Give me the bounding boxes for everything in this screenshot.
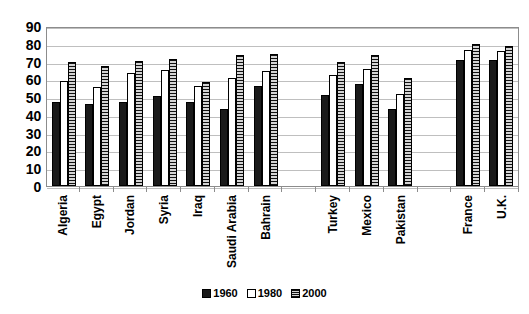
bar-1960 xyxy=(489,60,497,186)
y-tick-label: 70 xyxy=(26,56,41,70)
bar-group-jordan xyxy=(114,28,148,186)
bar-1980 xyxy=(161,70,169,186)
x-label-cell xyxy=(282,193,316,278)
plot-area xyxy=(46,27,519,187)
x-tick-label: Jordan xyxy=(124,195,136,235)
legend-swatch-icon xyxy=(247,289,256,298)
x-tick-label: Algeria xyxy=(57,195,69,236)
bar-1980 xyxy=(194,86,202,186)
x-tick-label: Saudi Arabia xyxy=(226,195,238,268)
bar-group xyxy=(47,28,81,186)
bar-1960 xyxy=(355,84,363,186)
y-tick-label: 0 xyxy=(33,180,41,194)
bar-group xyxy=(383,28,417,186)
legend-label: 1960 xyxy=(213,288,237,299)
y-tick-label: 30 xyxy=(26,127,41,141)
bar-2000 xyxy=(135,61,143,186)
bar-1960 xyxy=(186,102,194,186)
y-tick-label: 50 xyxy=(26,91,41,105)
y-tick-label: 90 xyxy=(26,20,41,34)
x-label-cell xyxy=(418,193,452,278)
x-tick-label: U.K. xyxy=(496,195,508,219)
bar-1960 xyxy=(220,109,228,186)
x-label-cell: Saudi Arabia xyxy=(215,193,249,278)
bar-1980 xyxy=(363,69,371,186)
x-label-cell: France xyxy=(451,193,485,278)
bar-2000 xyxy=(68,62,76,186)
bar-group xyxy=(417,28,451,186)
bars-layer xyxy=(47,28,518,186)
x-tick-label: Pakistan xyxy=(395,195,407,244)
y-tick-label: 10 xyxy=(26,162,41,176)
x-label-cell: Jordan xyxy=(114,193,148,278)
x-tick-label: Turkey xyxy=(327,195,339,233)
legend-item-1960: 1960 xyxy=(202,288,237,299)
bar-group-egypt xyxy=(81,28,115,186)
bar-group-empty xyxy=(417,28,451,186)
x-tick-label: Iraq xyxy=(192,195,204,217)
bar-1980 xyxy=(93,87,101,186)
chart-legend: 196019802000 xyxy=(0,288,529,299)
y-axis: 9080706050403020100 xyxy=(0,22,44,192)
legend-swatch-icon xyxy=(291,289,300,298)
bar-1980 xyxy=(329,75,337,186)
bar-2000 xyxy=(202,82,210,186)
x-tick-label: France xyxy=(462,195,474,234)
x-tick-label: Egypt xyxy=(91,195,103,228)
bar-group xyxy=(316,28,350,186)
bar-group xyxy=(148,28,182,186)
bar-1960 xyxy=(153,96,161,186)
legend-item-1980: 1980 xyxy=(247,288,282,299)
x-label-cell: Syria xyxy=(147,193,181,278)
bar-2000 xyxy=(101,66,109,186)
x-label-cell: Egypt xyxy=(80,193,114,278)
bar-1980 xyxy=(60,81,68,186)
x-label-cell: Bahrain xyxy=(249,193,283,278)
bar-2000 xyxy=(371,55,379,186)
bar-2000 xyxy=(337,62,345,186)
x-label-cell: Mexico xyxy=(350,193,384,278)
bar-2000 xyxy=(404,78,412,186)
bar-2000 xyxy=(505,46,513,186)
legend-item-2000: 2000 xyxy=(291,288,326,299)
legend-label: 2000 xyxy=(302,288,326,299)
bar-group xyxy=(215,28,249,186)
y-tick-label: 40 xyxy=(26,109,41,123)
x-label-cell: Iraq xyxy=(181,193,215,278)
bar-1980 xyxy=(396,94,404,186)
bar-group-turkey xyxy=(316,28,350,186)
bar-2000 xyxy=(472,44,480,186)
bar-1980 xyxy=(262,71,270,186)
bar-group-iraq xyxy=(182,28,216,186)
bar-1960 xyxy=(85,104,93,186)
bar-group-syria xyxy=(148,28,182,186)
bar-group-u-k xyxy=(484,28,518,186)
bar-1960 xyxy=(52,102,60,186)
bar-group xyxy=(182,28,216,186)
x-label-cell: Pakistan xyxy=(384,193,418,278)
x-axis-labels: AlgeriaEgyptJordanSyriaIraqSaudi ArabiaB… xyxy=(46,193,519,278)
bar-group-france xyxy=(451,28,485,186)
x-label-cell: U.K. xyxy=(485,193,519,278)
bar-2000 xyxy=(270,54,278,186)
x-tick-label: Mexico xyxy=(361,195,373,236)
bar-1960 xyxy=(254,86,262,186)
x-label-cell: Turkey xyxy=(316,193,350,278)
bar-1960 xyxy=(456,60,464,186)
x-tick-label: Syria xyxy=(158,195,170,224)
bar-group-algeria xyxy=(47,28,81,186)
bar-group-bahrain xyxy=(249,28,283,186)
y-tick-label: 20 xyxy=(26,144,41,158)
bar-1960 xyxy=(388,109,396,186)
x-tick-label: Bahrain xyxy=(260,195,272,240)
y-tick-label: 60 xyxy=(26,73,41,87)
bar-group-pakistan xyxy=(383,28,417,186)
bar-group xyxy=(451,28,485,186)
bar-2000 xyxy=(236,55,244,186)
y-tick-label: 80 xyxy=(26,38,41,52)
bar-1980 xyxy=(228,78,236,186)
bar-1960 xyxy=(321,95,329,186)
bar-group xyxy=(484,28,518,186)
bar-group xyxy=(249,28,283,186)
life-expectancy-bar-chart: 9080706050403020100 AlgeriaEgyptJordanSy… xyxy=(0,0,529,314)
